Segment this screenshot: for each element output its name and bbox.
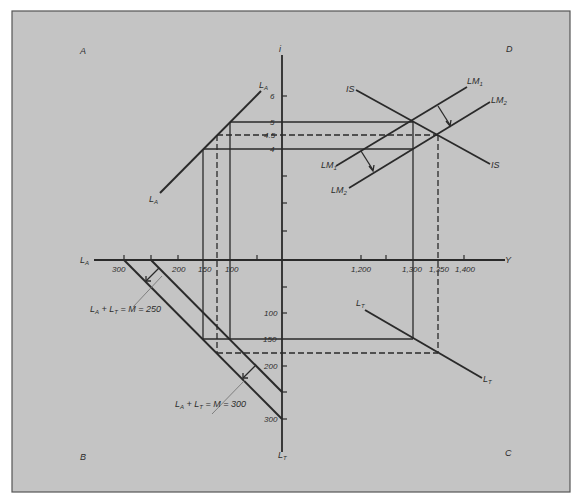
m300-label: LA + LT = M = 300 [175, 399, 246, 410]
is-label-top: IS [346, 84, 355, 94]
i-tick-label: 4 [270, 145, 275, 154]
chart-panel [12, 11, 570, 492]
lt-tick-label: 150 [263, 335, 277, 344]
lt-tick-label: 200 [263, 362, 278, 371]
quadrant-label-a: A [79, 46, 86, 56]
i-tick-label: 5 [270, 118, 275, 127]
i-tick-label: 6 [270, 92, 275, 101]
lt-tick-label: 100 [264, 309, 278, 318]
is-label-bottom: IS [491, 160, 500, 170]
four-quadrant-chart: A B C D i LT LA Y 6 5 4.5 4 300 200 150 … [0, 0, 579, 501]
lt-tick-label: 300 [264, 415, 278, 424]
la-tick-label: 300 [112, 265, 126, 274]
i-tick-label: 4.5 [264, 131, 276, 140]
la-tick-label: 200 [171, 265, 186, 274]
la-tick-label: 150 [198, 265, 212, 274]
quadrant-label-b: B [80, 452, 86, 462]
y-tick-label: 1,200 [351, 265, 372, 274]
y-tick-label: 1,350 [429, 265, 450, 274]
y-axis-label: Y [505, 255, 512, 265]
y-tick-label: 1,400 [455, 265, 476, 274]
la-tick-label: 100 [225, 265, 239, 274]
quadrant-label-d: D [506, 44, 513, 54]
y-tick-label: 1,300 [402, 265, 423, 274]
quadrant-label-c: C [505, 448, 512, 458]
m250-label: LA + LT = M = 250 [90, 304, 161, 315]
